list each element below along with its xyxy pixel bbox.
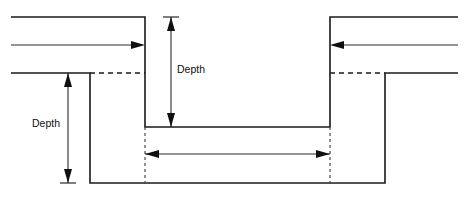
lower-depth-arrowhead-top-icon	[64, 73, 72, 87]
trench-width-arrowhead-right-icon	[316, 150, 330, 158]
lower-depth-arrowhead-bottom-icon	[64, 169, 72, 183]
diagram-canvas: Depth Depth	[0, 0, 469, 197]
upper-surface-profile	[11, 17, 458, 127]
upper-depth-label: Depth	[177, 63, 205, 75]
right-flow-arrowhead-icon	[330, 41, 344, 49]
lower-depth-label: Depth	[32, 117, 60, 129]
trench-width-arrowhead-left-icon	[145, 150, 159, 158]
lower-surface-profile	[11, 73, 458, 183]
upper-depth-arrowhead-bottom-icon	[167, 113, 175, 127]
left-flow-arrowhead-icon	[131, 41, 145, 49]
depth-profile-diagram: Depth Depth	[0, 0, 469, 197]
upper-depth-arrowhead-top-icon	[167, 17, 175, 31]
